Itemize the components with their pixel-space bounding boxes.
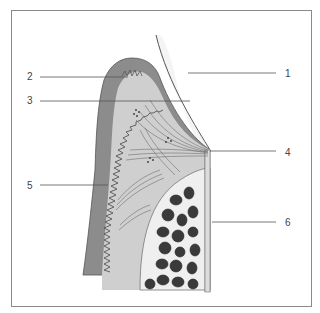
label-6: 6 xyxy=(285,218,291,228)
label-5: 5 xyxy=(27,181,33,191)
label-1: 1 xyxy=(285,69,291,79)
label-4: 4 xyxy=(285,148,291,158)
root-surface xyxy=(205,150,210,292)
label-2: 2 xyxy=(27,72,33,82)
label-3: 3 xyxy=(27,96,33,106)
gingiva-diagram xyxy=(0,0,320,313)
